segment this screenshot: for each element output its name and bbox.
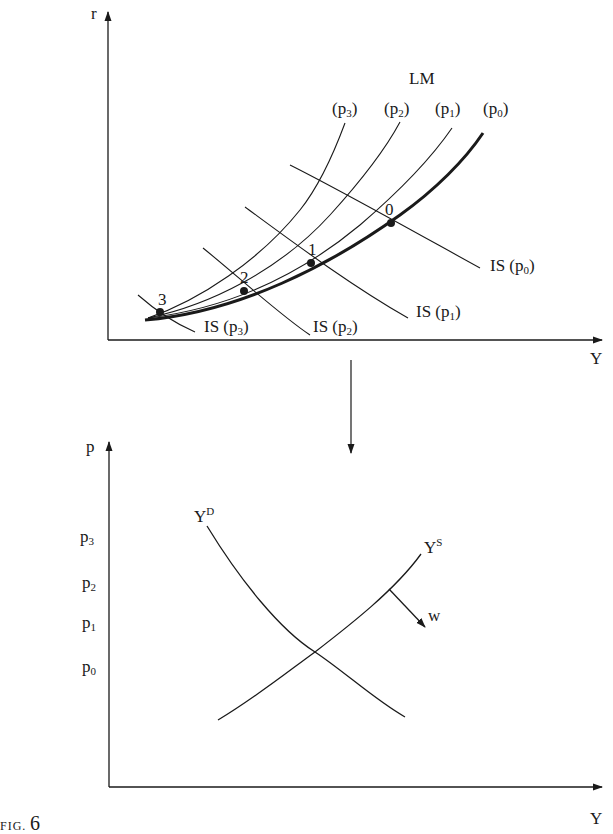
diagram-canvas (0, 0, 613, 834)
lm-label-p1: (p1) (435, 100, 460, 119)
point-label-0: 0 (385, 201, 394, 218)
figure-prefix: FIG. (0, 819, 26, 833)
lm-label-p3: (p3) (332, 100, 357, 119)
tick-label-p2: p2 (82, 574, 96, 593)
point-1 (307, 259, 315, 267)
w-label: w (428, 607, 440, 624)
point-label-1: 1 (308, 241, 317, 258)
y-axis-label-bottom: Y (590, 810, 602, 827)
equilibrium-points (156, 219, 395, 316)
ys-label: YS (424, 537, 442, 556)
is-label-p1: IS (p1) (416, 303, 461, 322)
tick-label-p3: p3 (80, 528, 94, 547)
lm-curve-p1 (148, 128, 452, 318)
lm-label-p2: (p2) (384, 100, 409, 119)
y-axis-label-top: Y (590, 350, 602, 367)
w-shift-arrow (389, 589, 425, 627)
lm-curves (145, 122, 483, 320)
yd-label: YD (194, 506, 214, 525)
bottom-axes (109, 442, 602, 787)
figure-caption: FIG. 6 (0, 812, 40, 834)
lm-curve-p0 (145, 133, 483, 320)
point-0 (387, 219, 395, 227)
point-2 (240, 287, 248, 295)
point-3 (156, 308, 164, 316)
tick-label-p0: p0 (82, 658, 96, 677)
ys-curve (218, 554, 421, 720)
ad-as-curves (207, 526, 421, 720)
top-axes (108, 12, 602, 340)
is-label-p2: IS (p2) (313, 318, 358, 337)
figure-number: 6 (30, 812, 40, 834)
lm-label-p0: (p0) (483, 100, 508, 119)
p-axis-label: p (86, 438, 95, 455)
is-label-p0: IS (p0) (490, 257, 535, 276)
point-label-3: 3 (158, 291, 167, 308)
lm-title-label: LM (409, 70, 435, 87)
tick-label-p1: p1 (82, 614, 96, 633)
yd-curve (207, 526, 405, 717)
is-label-p3: IS (p3) (204, 318, 249, 337)
lm-curve-p2 (148, 122, 400, 318)
r-axis-label: r (91, 5, 97, 22)
point-label-2: 2 (240, 269, 249, 286)
